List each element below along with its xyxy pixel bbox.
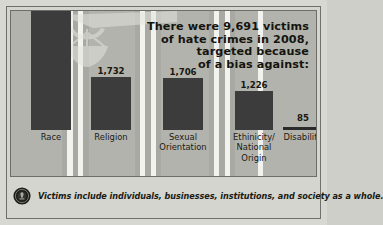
- footnote: Victims include individuals, businesses,…: [38, 191, 383, 201]
- bar-label-disability: Disability: [276, 130, 317, 176]
- poster-inner: There were 9,691 victims of hate crimes …: [10, 10, 317, 215]
- bar-label-line: Disability: [276, 132, 317, 142]
- bar-label-religion: Religion: [84, 130, 138, 176]
- bar-value-ethnicity: 1,226: [235, 80, 273, 90]
- bar-value-sexual-orientation: 1,706: [163, 67, 203, 77]
- bar-label-line: Religion: [84, 132, 138, 142]
- bar-sexual-orientation: [163, 78, 203, 130]
- bar-label-line: Origin: [228, 153, 280, 163]
- bars-layer: 4,943 Race 1,732 Religion 1,706: [11, 11, 316, 176]
- bar-value-disability: 85: [283, 113, 317, 123]
- chart-area: There were 9,691 victims of hate crimes …: [10, 10, 317, 177]
- bar-label-line: Race: [24, 132, 78, 142]
- bar-label-line: Orientation: [156, 142, 210, 152]
- poster-frame: There were 9,691 victims of hate crimes …: [6, 6, 321, 219]
- bar-label-line: Ethinicity/: [228, 132, 280, 142]
- bar-religion: [91, 77, 131, 130]
- bar-ethnicity: [235, 91, 273, 130]
- bar-label-race: Race: [24, 130, 78, 176]
- bar-label-line: Sexual: [156, 132, 210, 142]
- bar-label-sexual-orientation: Sexual Orientation: [156, 130, 210, 176]
- doj-seal-icon: [13, 187, 31, 205]
- bar-race: [31, 10, 71, 130]
- footer: Victims include individuals, businesses,…: [10, 177, 317, 215]
- bar-value-religion: 1,732: [91, 66, 131, 76]
- bar-label-ethnicity: Ethinicity/ National Origin: [228, 130, 280, 176]
- bar-label-line: National: [228, 142, 280, 152]
